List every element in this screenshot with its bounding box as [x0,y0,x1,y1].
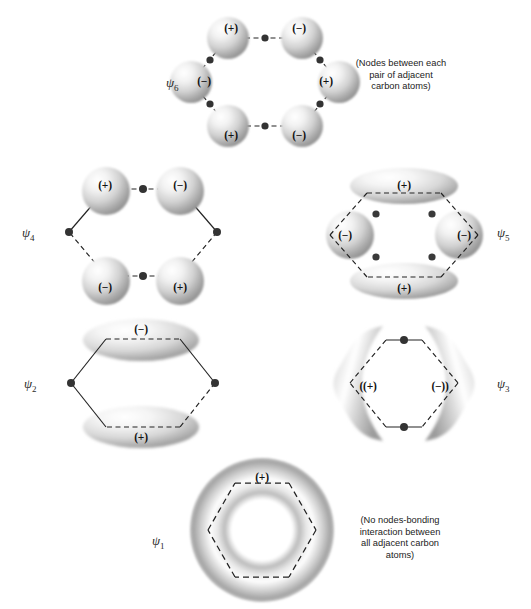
sign-label: (+) [134,431,147,443]
psi-subscript: 1 [160,541,165,551]
psi-subscript: 5 [505,233,510,243]
sign-label: (−)) [432,380,449,392]
psi-subscript: 4 [30,233,35,243]
sign-label: (−) [173,179,186,191]
orbital-label-psi3: ψ3 [497,376,510,394]
psi-glyph: ψ [166,75,174,90]
sign-label: (−) [292,129,305,141]
sign-label: (+) [319,75,332,87]
psi-glyph: ψ [497,225,505,240]
psi-glyph: ψ [22,225,30,240]
sign-label: (−) [338,229,351,241]
sign-label: (−) [98,281,111,293]
psi-subscript: 6 [174,83,179,93]
psi-subscript: 3 [505,384,510,394]
note-psi1-no-nodes: (No nodes-bonding interaction between al… [335,515,465,561]
psi-subscript: 2 [32,384,37,394]
sign-label: (+) [255,471,268,483]
orbital-psi2-artwork [67,319,219,448]
sign-label: (+) [98,179,111,191]
sign-label: (−) [292,22,305,34]
psi-glyph: ψ [24,376,32,391]
orbital-label-psi4: ψ4 [22,225,35,243]
sign-label: (+) [397,179,410,191]
sign-label: (+) [224,22,237,34]
note-psi6-nodes: (Nodes between each pair of adjacent car… [340,58,462,93]
mo-diagram-figure: ψ6 ψ4 ψ5 ψ2 ψ3 ψ1 (+) (−) (−) (+) (+) (−… [0,0,531,609]
sign-label: (−) [457,229,470,241]
sign-label: (+) [397,282,410,294]
psi-glyph: ψ [152,533,160,548]
sign-label: (−) [197,75,210,87]
sign-label: (+) [224,129,237,141]
orbital-psi3-artwork [334,326,475,441]
orbital-psi4-artwork [65,167,221,305]
orbital-label-psi1: ψ1 [152,533,165,551]
orbital-label-psi6: ψ6 [166,75,179,93]
sign-label: (−) [134,323,147,335]
sign-label: ((+) [360,380,377,392]
sign-label: (+) [173,281,186,293]
orbital-label-psi5: ψ5 [497,225,510,243]
psi-glyph: ψ [497,376,505,391]
orbital-label-psi2: ψ2 [24,376,37,394]
